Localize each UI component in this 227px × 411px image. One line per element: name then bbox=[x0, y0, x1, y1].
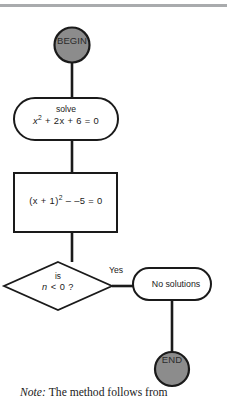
figure-note-text: The method follows from bbox=[46, 386, 168, 399]
node-solve-process[interactable] bbox=[14, 98, 118, 140]
node-end-terminal[interactable] bbox=[155, 352, 189, 386]
figure-note: Note:The method follows from bbox=[20, 386, 220, 399]
node-completed-square-process[interactable] bbox=[14, 173, 117, 232]
node-no-solutions-process[interactable] bbox=[133, 268, 211, 300]
node-begin-terminal[interactable] bbox=[55, 28, 90, 63]
flowchart-canvas bbox=[0, 0, 227, 411]
node-decision-diamond[interactable] bbox=[4, 262, 112, 310]
figure-note-keyword: Note: bbox=[20, 386, 46, 399]
